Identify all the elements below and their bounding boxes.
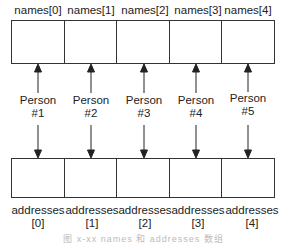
addresses-label-1: addresses [1] (62, 204, 122, 230)
arrow-down-icon (245, 125, 252, 158)
arrow-down-icon (35, 125, 42, 158)
person-label-4: Person #4 (166, 94, 226, 120)
addresses-text: addresses (168, 204, 228, 217)
addresses-index: [0] (8, 217, 68, 230)
addresses-text: addresses (62, 204, 122, 217)
person-text: Person (166, 94, 226, 107)
addresses-cell-1 (65, 159, 118, 197)
figure-caption: 图 x-xx names 和 addresses 数组 (0, 232, 287, 245)
addresses-cell-4 (222, 159, 274, 197)
arrow-down-icon (88, 125, 95, 158)
arrow-up-icon (193, 64, 200, 93)
arrow-up-icon (35, 64, 42, 93)
addresses-index: [3] (168, 217, 228, 230)
arrow-down-icon (141, 125, 148, 158)
addresses-text: addresses (8, 204, 68, 217)
person-number: #4 (166, 107, 226, 120)
arrow-up-icon (88, 64, 95, 93)
addresses-label-3: addresses [3] (168, 204, 228, 230)
addresses-index: [4] (222, 217, 282, 230)
addresses-label-2: addresses [2] (115, 204, 175, 230)
addresses-label-0: addresses [0] (8, 204, 68, 230)
person-number: #3 (114, 107, 174, 120)
person-label-5: Person #5 (218, 92, 278, 118)
person-text: Person (8, 94, 68, 107)
person-number: #5 (218, 105, 278, 118)
person-text: Person (61, 94, 121, 107)
person-label-3: Person #3 (114, 94, 174, 120)
person-number: #1 (8, 107, 68, 120)
addresses-text: addresses (115, 204, 175, 217)
addresses-cell-2 (117, 159, 170, 197)
arrow-down-icon (193, 125, 200, 158)
arrow-up-icon (245, 64, 252, 93)
arrow-up-icon (141, 64, 148, 93)
person-label-1: Person #1 (8, 94, 68, 120)
person-label-2: Person #2 (61, 94, 121, 120)
person-text: Person (114, 94, 174, 107)
addresses-array (11, 158, 275, 198)
addresses-text: addresses (222, 204, 282, 217)
addresses-index: [1] (62, 217, 122, 230)
addresses-cell-3 (170, 159, 223, 197)
addresses-index: [2] (115, 217, 175, 230)
person-number: #2 (61, 107, 121, 120)
addresses-label-4: addresses [4] (222, 204, 282, 230)
addresses-cell-0 (12, 159, 65, 197)
person-text: Person (218, 92, 278, 105)
